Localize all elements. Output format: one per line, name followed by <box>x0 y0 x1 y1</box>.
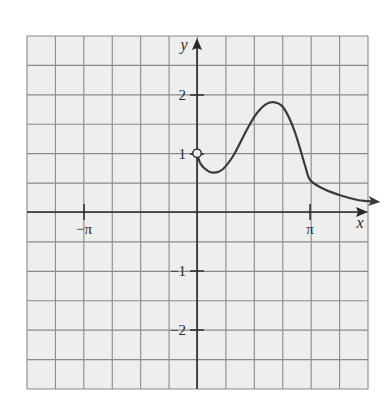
open-circle-marker <box>193 149 201 157</box>
label-ym1: −1 <box>170 263 186 279</box>
label-ym2: −2 <box>170 322 186 338</box>
x-axis-label: x <box>355 214 363 231</box>
label-y2: 2 <box>179 87 187 103</box>
y-axis-label: y <box>178 36 188 54</box>
label-pi: π <box>306 221 314 237</box>
label-neg-pi: −π <box>76 221 92 237</box>
function-graph: −π π 2 1 −1 −2 y x <box>0 0 386 418</box>
label-y1: 1 <box>179 146 187 162</box>
